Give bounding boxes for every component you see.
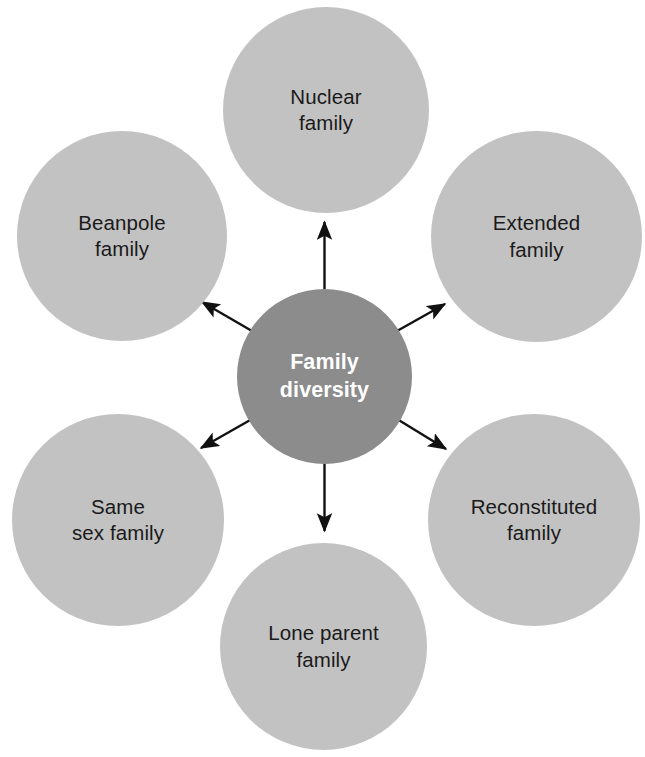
node-reconstituted-family[interactable]: Reconstituted family: [428, 414, 640, 626]
arrow-to-same-sex: [201, 419, 252, 448]
node-label-family-diversity: Family diversity: [280, 349, 369, 405]
node-label-extended-family: Extended family: [493, 210, 580, 262]
node-same-sex-family[interactable]: Same sex family: [12, 414, 224, 626]
node-label-same-sex-family: Same sex family: [72, 494, 164, 546]
arrow-to-beanpole: [202, 302, 252, 331]
family-diversity-diagram: Nuclear family Extended family Reconstit…: [0, 0, 645, 757]
node-label-reconstituted-family: Reconstituted family: [471, 494, 598, 546]
node-label-lone-parent-family: Lone parent family: [268, 620, 379, 672]
arrow-to-reconstituted: [397, 419, 446, 449]
node-beanpole-family[interactable]: Beanpole family: [17, 131, 227, 341]
node-label-beanpole-family: Beanpole family: [78, 210, 165, 262]
arrow-to-extended: [397, 304, 445, 331]
node-nuclear-family[interactable]: Nuclear family: [223, 7, 429, 213]
node-extended-family[interactable]: Extended family: [431, 131, 642, 342]
node-lone-parent-family[interactable]: Lone parent family: [220, 543, 427, 750]
node-family-diversity-center[interactable]: Family diversity: [237, 289, 412, 464]
node-label-nuclear-family: Nuclear family: [290, 84, 361, 136]
